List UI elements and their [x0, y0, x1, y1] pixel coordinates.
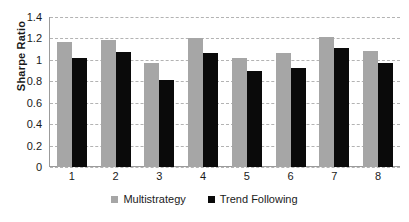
x-tick-label: 1 — [50, 170, 94, 186]
bar-multistrategy-2 — [101, 40, 116, 168]
bar-trend-following-8 — [378, 63, 393, 167]
bar-trend-following-2 — [116, 52, 131, 167]
bar-group — [225, 17, 269, 167]
legend-swatch-icon — [111, 196, 118, 203]
y-tick-label: 1.2 — [27, 32, 42, 44]
bar-trend-following-5 — [247, 71, 262, 167]
bar-trend-following-7 — [334, 48, 349, 167]
y-axis-tick-labels: 1.41.210.80.60.40.20 — [0, 17, 47, 167]
bars-layer — [50, 17, 400, 167]
x-tick-label: 4 — [181, 170, 225, 186]
bar-trend-following-4 — [203, 53, 218, 167]
x-tick-label: 2 — [94, 170, 138, 186]
legend-label: Multistrategy — [123, 193, 185, 205]
bar-group — [356, 17, 400, 167]
chart-legend: MultistrategyTrend Following — [0, 191, 409, 207]
legend-label: Trend Following — [220, 193, 298, 205]
bar-multistrategy-8 — [363, 51, 378, 167]
bar-group — [138, 17, 182, 167]
y-tick-label: 0 — [36, 161, 42, 173]
y-tick-label: 0.2 — [27, 140, 42, 152]
legend-item-multistrategy: Multistrategy — [111, 193, 185, 205]
x-tick-label: 5 — [225, 170, 269, 186]
gridline — [50, 167, 400, 168]
y-tick-label: 0.8 — [27, 75, 42, 87]
x-tick-label: 8 — [356, 170, 400, 186]
bar-multistrategy-7 — [319, 37, 334, 167]
x-tick-label: 7 — [313, 170, 357, 186]
bar-trend-following-1 — [72, 58, 87, 167]
bar-group — [50, 17, 94, 167]
x-axis-tick-labels: 12345678 — [50, 170, 400, 186]
bar-trend-following-3 — [159, 80, 174, 167]
bar-multistrategy-5 — [232, 58, 247, 167]
bar-multistrategy-6 — [276, 53, 291, 167]
bar-group — [269, 17, 313, 167]
bar-multistrategy-1 — [57, 42, 72, 167]
bar-group — [313, 17, 357, 167]
x-tick-label: 6 — [269, 170, 313, 186]
bar-multistrategy-3 — [144, 63, 159, 167]
y-tick-label: 1 — [36, 54, 42, 66]
y-tick-label: 1.4 — [27, 11, 42, 23]
legend-swatch-icon — [208, 196, 215, 203]
legend-item-trend-following: Trend Following — [208, 193, 298, 205]
y-tick-label: 0.6 — [27, 97, 42, 109]
sharpe-ratio-bar-chart: Sharpe Ratio 1.41.210.80.60.40.20 123456… — [0, 0, 409, 222]
bar-group — [181, 17, 225, 167]
y-tick-label: 0.4 — [27, 118, 42, 130]
bar-trend-following-6 — [291, 68, 306, 167]
bar-group — [94, 17, 138, 167]
bar-multistrategy-4 — [188, 38, 203, 167]
x-tick-label: 3 — [138, 170, 182, 186]
